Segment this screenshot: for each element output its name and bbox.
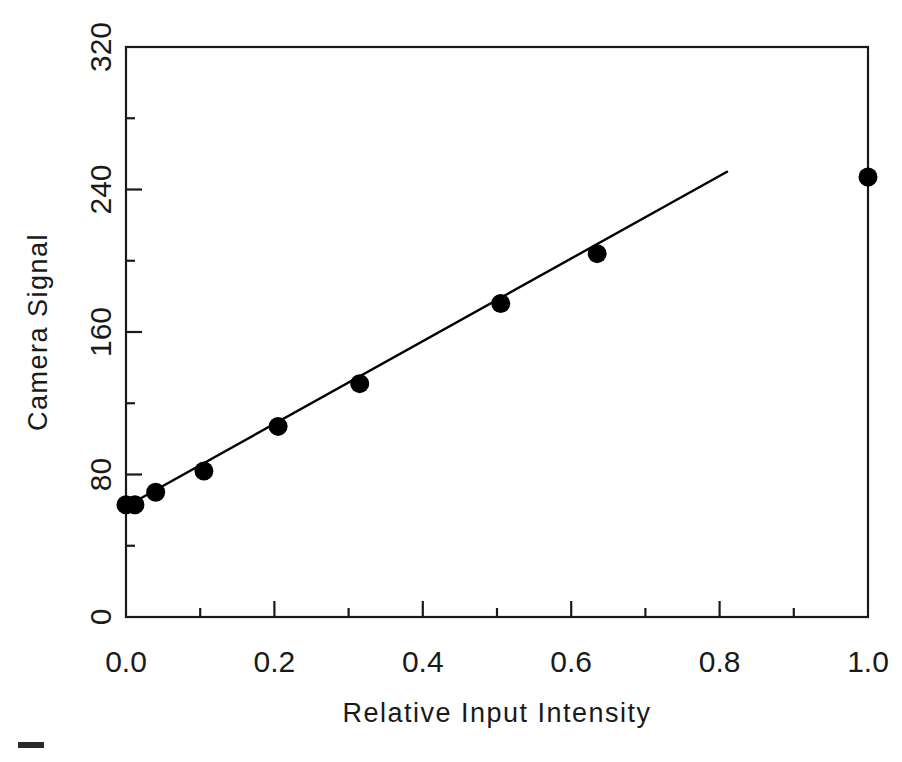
y-axis-tick-labels: 080160240320: [84, 22, 117, 625]
linear-fit-line: [126, 172, 727, 507]
data-point: [194, 461, 213, 480]
data-point-series: [117, 168, 878, 515]
data-point: [269, 417, 288, 436]
x-tick-label: 0.4: [402, 645, 444, 678]
y-axis-ticks: [126, 118, 142, 546]
y-tick-label: 320: [84, 22, 117, 72]
data-point: [350, 374, 369, 393]
y-tick-label: 240: [84, 164, 117, 214]
data-point: [125, 495, 144, 514]
data-point: [146, 483, 165, 502]
x-tick-label: 0.0: [105, 645, 147, 678]
data-point: [491, 294, 510, 313]
x-axis-tick-labels: 0.00.20.40.60.81.0: [105, 645, 889, 678]
scan-artifact-mark: [18, 742, 44, 748]
x-tick-label: 1.0: [847, 645, 889, 678]
plot-frame: [126, 47, 868, 617]
x-tick-label: 0.2: [254, 645, 296, 678]
y-axis-title: Camera Signal: [23, 233, 53, 431]
x-tick-label: 0.8: [699, 645, 741, 678]
x-tick-label: 0.6: [550, 645, 592, 678]
camera-signal-linearity-scatter-plot: 080160240320 0.00.20.40.60.81.0 Camera S…: [0, 0, 902, 762]
y-tick-label: 0: [84, 609, 117, 626]
x-axis-ticks: [200, 601, 794, 617]
y-tick-label: 80: [84, 458, 117, 491]
chart-figure: 080160240320 0.00.20.40.60.81.0 Camera S…: [0, 0, 902, 762]
data-point: [588, 244, 607, 263]
x-axis-title: Relative Input Intensity: [342, 698, 651, 728]
y-tick-label: 160: [84, 307, 117, 357]
data-point: [859, 168, 878, 187]
